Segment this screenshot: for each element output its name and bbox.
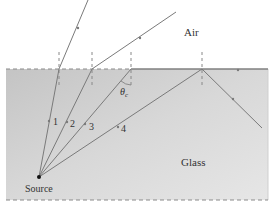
arrow-icon <box>48 120 50 122</box>
refraction-diagram: Air Glass Source θc 1 2 3 4 <box>0 0 279 206</box>
arrow-icon <box>84 123 86 125</box>
source-label: Source <box>25 183 53 194</box>
air-label: Air <box>184 26 199 38</box>
glass-label: Glass <box>181 156 205 168</box>
arrow-icon <box>117 126 119 128</box>
arrow-icon <box>66 121 68 123</box>
ray-2-label: 2 <box>70 118 75 129</box>
arrow-icon <box>77 27 79 29</box>
ray-1-label: 1 <box>53 116 58 127</box>
arrow-icon <box>232 98 234 100</box>
arrow-icon <box>237 69 239 71</box>
source-point <box>37 175 41 179</box>
ray-4-label: 4 <box>121 123 126 134</box>
arrow-icon <box>139 37 141 39</box>
ray-3-label: 3 <box>89 121 94 132</box>
glass-region <box>6 69 268 200</box>
